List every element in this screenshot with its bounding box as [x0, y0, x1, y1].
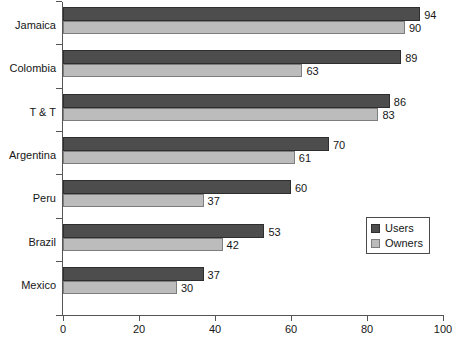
bar-users-t-t [63, 94, 390, 108]
bar-owners-peru [63, 194, 204, 207]
x-tick-label-40: 40 [195, 323, 235, 335]
bar-users-colombia [63, 50, 401, 64]
category-label-brazil: Brazil [0, 236, 56, 248]
bar-owners-brazil [63, 238, 223, 251]
chart-legend: Users Owners [366, 217, 430, 254]
y-tick-5 [56, 218, 62, 219]
bar-owners-mexico [63, 281, 177, 294]
bar-owners-jamaica [63, 21, 405, 34]
bar-value-users-t-t: 86 [394, 96, 406, 108]
x-tick-label-80: 80 [347, 323, 387, 335]
bar-value-owners-argentina: 61 [299, 152, 311, 164]
bar-value-users-jamaica: 94 [424, 9, 436, 21]
x-tick-label-0: 0 [43, 323, 83, 335]
legend-swatch-users-icon [371, 224, 380, 233]
bar-users-jamaica [63, 7, 420, 21]
y-tick-2 [56, 88, 62, 89]
x-tick-0 [63, 315, 64, 321]
bar-users-mexico [63, 267, 204, 281]
category-label-t-t: T & T [0, 106, 56, 118]
bar-value-owners-t-t: 83 [382, 109, 394, 121]
x-tick-60 [291, 315, 292, 321]
bar-value-owners-mexico: 30 [181, 282, 193, 294]
y-tick-1 [56, 44, 62, 45]
legend-swatch-owners-icon [371, 239, 380, 248]
bar-value-users-mexico: 37 [208, 269, 220, 281]
x-tick-80 [367, 315, 368, 321]
y-tick-4 [56, 174, 62, 175]
bar-value-users-colombia: 89 [405, 52, 417, 64]
y-tick-6 [56, 261, 62, 262]
bar-value-owners-brazil: 42 [227, 239, 239, 251]
category-label-argentina: Argentina [0, 149, 56, 161]
x-tick-label-20: 20 [119, 323, 159, 335]
bar-value-owners-colombia: 63 [306, 65, 318, 77]
bar-value-users-argentina: 70 [333, 139, 345, 151]
y-tick-3 [56, 131, 62, 132]
x-tick-label-60: 60 [271, 323, 311, 335]
x-tick-label-100: 100 [423, 323, 457, 335]
bar-value-users-brazil: 53 [268, 226, 280, 238]
bar-owners-argentina [63, 151, 295, 164]
category-label-peru: Peru [0, 192, 56, 204]
bar-users-brazil [63, 224, 264, 238]
x-tick-40 [215, 315, 216, 321]
category-label-colombia: Colombia [0, 62, 56, 74]
legend-item-owners: Owners [371, 236, 429, 251]
legend-label-users: Users [385, 223, 414, 234]
legend-label-owners: Owners [385, 238, 423, 249]
bar-value-users-peru: 60 [295, 182, 307, 194]
bar-users-argentina [63, 137, 329, 151]
x-axis-line [62, 315, 444, 316]
legend-item-users: Users [371, 221, 429, 236]
x-tick-100 [443, 315, 444, 321]
y-tick-0 [56, 1, 62, 2]
bar-owners-t-t [63, 108, 378, 121]
category-label-mexico: Mexico [0, 279, 56, 291]
bar-owners-colombia [63, 64, 302, 77]
bar-value-owners-jamaica: 90 [409, 22, 421, 34]
bar-users-peru [63, 180, 291, 194]
x-tick-20 [139, 315, 140, 321]
bar-value-owners-peru: 37 [208, 195, 220, 207]
bar-chart: 020406080100 JamaicaColombiaT & TArgenti… [0, 0, 457, 346]
category-label-jamaica: Jamaica [0, 19, 56, 31]
y-tick-end [56, 315, 62, 316]
